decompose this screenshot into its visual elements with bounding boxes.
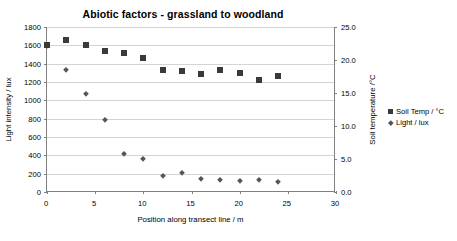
data-point-light: [256, 177, 262, 183]
plot-area: [46, 27, 335, 192]
x-axis-title: Position along transect line / m: [46, 215, 335, 224]
x-axis-tick: [240, 191, 241, 194]
y-axis-left-tick: [44, 155, 47, 156]
data-point-light: [140, 156, 146, 162]
data-point-light: [179, 170, 185, 176]
x-axis-tick: [47, 191, 48, 194]
data-point-soil-temp: [256, 77, 262, 83]
gridline: [47, 137, 334, 138]
x-axis-tick-label: 10: [122, 199, 162, 208]
data-point-soil-temp: [179, 68, 185, 74]
y-axis-left-tick: [44, 119, 47, 120]
gridline: [47, 174, 334, 175]
x-axis-tick-label: 0: [26, 199, 66, 208]
data-point-soil-temp: [63, 37, 69, 43]
chart-title: Abiotic factors - grassland to woodland: [0, 8, 366, 20]
data-point-light: [198, 176, 204, 182]
data-point-soil-temp: [121, 50, 127, 56]
data-point-soil-temp: [160, 67, 166, 73]
x-axis-tick-label: 20: [219, 199, 259, 208]
x-axis-tick-label: 30: [315, 199, 355, 208]
y-axis-right-tick: [334, 60, 337, 61]
legend-item-label: Soil Temp / °C: [395, 107, 444, 116]
x-axis-tick-label: 5: [74, 199, 114, 208]
data-point-light: [121, 151, 127, 157]
y-axis-left-title: Light intensity / lux: [4, 27, 13, 192]
data-point-light: [102, 117, 108, 123]
y-axis-left-tick: [44, 192, 47, 193]
x-axis-tick-label: 25: [267, 199, 307, 208]
y-axis-right-tick: [334, 192, 337, 193]
y-axis-left-tick: [44, 27, 47, 28]
y-axis-right-tick: [334, 126, 337, 127]
data-point-soil-temp: [102, 48, 108, 54]
gridline: [47, 119, 334, 120]
data-point-soil-temp: [140, 55, 146, 61]
gridline: [47, 82, 334, 83]
y-axis-right-tick: [334, 159, 337, 160]
data-point-light: [63, 67, 69, 73]
data-point-light: [275, 179, 281, 185]
legend-diamond-marker-icon: [386, 121, 395, 125]
gridline: [47, 64, 334, 65]
x-axis-tick: [143, 191, 144, 194]
data-point-soil-temp: [217, 67, 223, 73]
chart-legend: Soil Temp / °CLight / lux: [386, 106, 444, 128]
y-axis-left-tick: [44, 174, 47, 175]
x-axis-tick: [288, 191, 289, 194]
data-point-soil-temp: [198, 71, 204, 77]
y-axis-left-tick: [44, 100, 47, 101]
y-axis-left-tick: [44, 82, 47, 83]
y-axis-right-tick: [334, 93, 337, 94]
data-point-light: [237, 178, 243, 184]
data-point-soil-temp: [83, 42, 89, 48]
legend-item[interactable]: Light / lux: [386, 117, 444, 128]
legend-square-marker-icon: [386, 109, 395, 114]
x-axis-tick-label: 15: [171, 199, 211, 208]
x-axis-tick: [192, 191, 193, 194]
gridline: [47, 27, 334, 28]
gridline: [47, 100, 334, 101]
y-axis-left-tick: [44, 64, 47, 65]
chart-container: Abiotic factors - grassland to woodland …: [0, 0, 457, 241]
x-axis-tick: [95, 191, 96, 194]
legend-item[interactable]: Soil Temp / °C: [386, 106, 444, 117]
gridline: [47, 155, 334, 156]
legend-item-label: Light / lux: [395, 118, 429, 127]
data-point-soil-temp: [44, 42, 50, 48]
y-axis-right-tick: [334, 27, 337, 28]
data-point-light: [217, 177, 223, 183]
data-point-soil-temp: [237, 70, 243, 76]
data-point-light: [83, 91, 89, 97]
y-axis-left-tick: [44, 137, 47, 138]
gridline: [47, 45, 334, 46]
y-axis-right-title: Soil temperature /°C: [368, 27, 377, 192]
data-point-soil-temp: [275, 73, 281, 79]
